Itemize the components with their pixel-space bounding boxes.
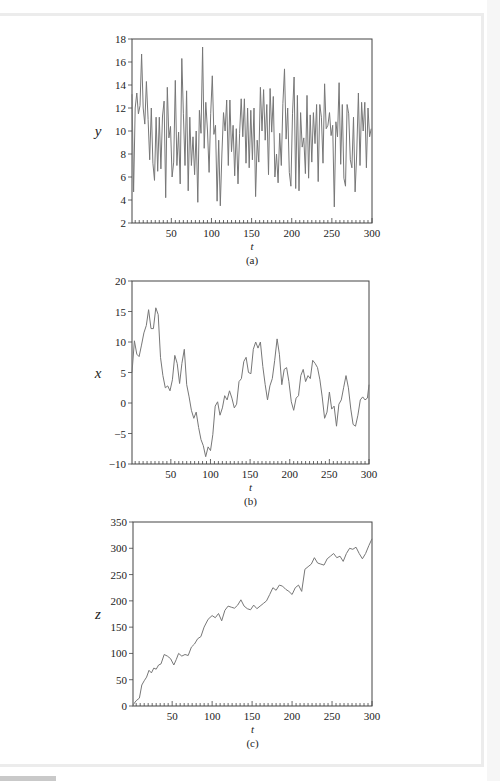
x-tick-label: 100 (204, 710, 221, 722)
y-tick-label: 250 (111, 569, 128, 581)
x-tick-label: 300 (364, 710, 381, 722)
y-tick-label: 350 (111, 516, 128, 528)
y-tick-label: 200 (111, 595, 128, 607)
data-line-c (133, 539, 372, 705)
x-tick-label: 200 (284, 710, 301, 722)
x-tick-label: 150 (244, 710, 261, 722)
y-tick-label: 300 (111, 542, 128, 554)
plot-area-c (133, 522, 372, 706)
x-axis-label: t (251, 723, 255, 735)
x-tick-label: 50 (167, 710, 179, 722)
y-tick-label: 0 (122, 700, 128, 712)
y-axis-label: z (94, 606, 101, 622)
x-tick-label: 250 (324, 710, 341, 722)
y-tick-label: 150 (111, 621, 128, 633)
chart-caption: (c) (246, 737, 259, 750)
y-tick-label: 50 (116, 674, 128, 686)
chart-c: 50100150200250300050100150200250300350tz… (0, 0, 500, 781)
y-tick-label: 100 (111, 647, 128, 659)
